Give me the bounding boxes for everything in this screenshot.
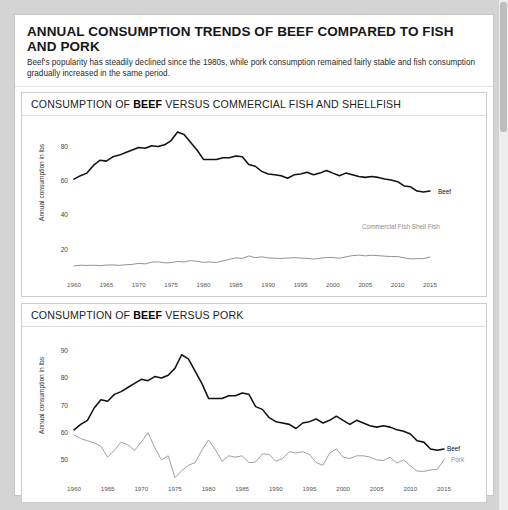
chart2-y-axis-label: Annual consumption in lbs: [38, 357, 45, 434]
x-tick-label: 1995: [303, 485, 317, 492]
y-tick-label: 90: [61, 347, 69, 354]
chart2-title-prefix: CONSUMPTION OF: [31, 309, 133, 321]
series-line-pork: [74, 433, 444, 478]
y-tick-label: 40: [61, 211, 69, 218]
chart2-title-suffix: VERSUS PORK: [162, 309, 243, 321]
x-tick-label: 1985: [229, 281, 243, 288]
x-tick-label: 1965: [99, 281, 113, 288]
page-scrollbar[interactable]: [498, 0, 508, 510]
chart1-y-axis-label: Annual consumption in lbs: [38, 144, 45, 221]
series-label-beef: Beef: [447, 445, 460, 452]
chart1-title-suffix: VERSUS COMMERCIAL FISH AND SHELLFISH: [162, 98, 401, 110]
x-tick-label: 1970: [132, 281, 146, 288]
x-tick-label: 1990: [261, 281, 275, 288]
series-label-commercial-fish-shell-fish: Commercial Fish Shell Fish: [362, 223, 440, 230]
x-tick-label: 1960: [67, 281, 81, 288]
x-tick-label: 2000: [336, 485, 350, 492]
chart2-svg: 5060708090196019651970197519801985199019…: [22, 327, 486, 503]
y-tick-label: 50: [61, 456, 69, 463]
series-label-pork: Pork: [451, 456, 465, 463]
x-tick-label: 1995: [294, 281, 308, 288]
x-tick-label: 1960: [67, 485, 81, 492]
page-title: ANNUAL CONSUMPTION TRENDS OF BEEF COMPAR…: [27, 24, 481, 54]
x-tick-label: 2005: [370, 485, 384, 492]
page-background: ANNUAL CONSUMPTION TRENDS OF BEEF COMPAR…: [0, 0, 508, 510]
series-line-beef: [74, 132, 430, 192]
y-tick-label: 60: [61, 177, 69, 184]
chart1-title-bold: BEEF: [133, 98, 162, 110]
scrollbar-thumb[interactable]: [500, 2, 507, 132]
x-tick-label: 1970: [134, 485, 148, 492]
x-tick-label: 1980: [197, 281, 211, 288]
y-tick-label: 70: [61, 402, 69, 409]
series-line-commercial-fish-shell-fish: [74, 255, 430, 266]
x-tick-label: 1975: [168, 485, 182, 492]
x-tick-label: 2015: [423, 281, 437, 288]
y-tick-label: 80: [61, 143, 69, 150]
chart1-title: CONSUMPTION OF BEEF VERSUS COMMERCIAL FI…: [22, 93, 486, 116]
x-tick-label: 2015: [437, 485, 451, 492]
chart1-plot-area: Annual consumption in lbs 20406080196019…: [22, 116, 486, 297]
x-tick-label: 1980: [202, 485, 216, 492]
x-tick-label: 2010: [391, 281, 405, 288]
chart2-plot-area: Annual consumption in lbs 50607080901960…: [22, 327, 486, 503]
chart2-title: CONSUMPTION OF BEEF VERSUS PORK: [22, 304, 486, 327]
x-tick-label: 1990: [269, 485, 283, 492]
page-subtitle: Beef's popularity has steadily declined …: [27, 58, 481, 79]
series-line-beef: [74, 355, 444, 451]
y-tick-label: 80: [61, 374, 69, 381]
chart-panel-beef-vs-fish: CONSUMPTION OF BEEF VERSUS COMMERCIAL FI…: [21, 92, 487, 297]
x-tick-label: 1985: [235, 485, 249, 492]
chart1-title-prefix: CONSUMPTION OF: [31, 98, 133, 110]
report-card: ANNUAL CONSUMPTION TRENDS OF BEEF COMPAR…: [14, 14, 494, 496]
x-tick-label: 2000: [326, 281, 340, 288]
series-label-beef: Beef: [438, 188, 451, 195]
x-tick-label: 2005: [358, 281, 372, 288]
report-header: ANNUAL CONSUMPTION TRENDS OF BEEF COMPAR…: [15, 15, 493, 87]
chart2-title-bold: BEEF: [133, 309, 162, 321]
chart1-svg: 2040608019601965197019751980198519901995…: [22, 116, 486, 297]
chart-panel-beef-vs-pork: CONSUMPTION OF BEEF VERSUS PORK Annual c…: [21, 303, 487, 503]
y-tick-label: 60: [61, 429, 69, 436]
x-tick-label: 1965: [101, 485, 115, 492]
y-tick-label: 20: [61, 246, 69, 253]
x-tick-label: 1975: [164, 281, 178, 288]
x-tick-label: 2010: [403, 485, 417, 492]
